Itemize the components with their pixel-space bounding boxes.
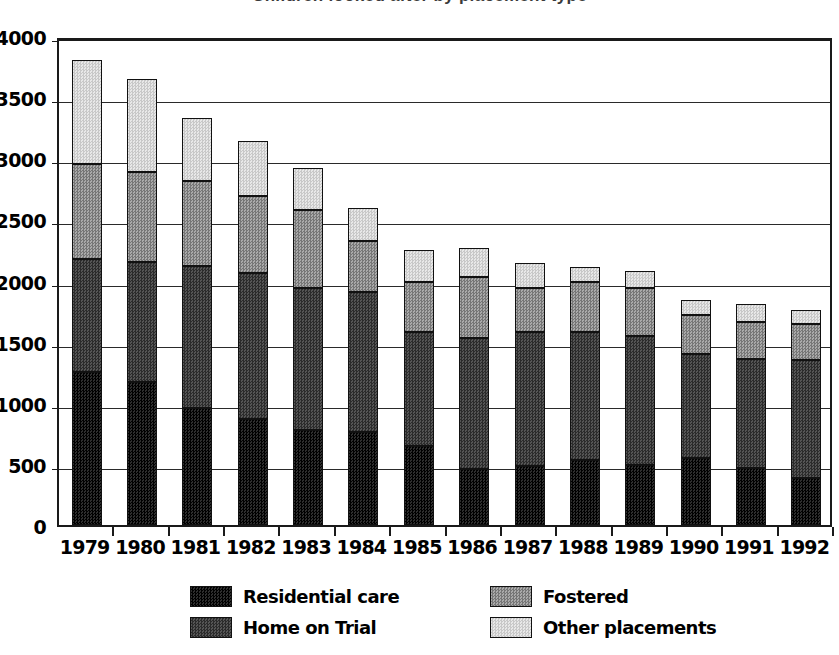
bar-segment-other <box>348 208 378 241</box>
x-axis-label-1988: 1988 <box>558 536 608 558</box>
bar-segment-residential <box>736 468 766 525</box>
x-axis-label-1991: 1991 <box>724 536 774 558</box>
bar-segment-home <box>459 338 489 469</box>
legend-label-residential: Residential care <box>243 586 399 607</box>
chart-title-clipped: Children looked after by placement type <box>0 0 839 14</box>
y-axis-labels: 05001000150020002500300035004000 <box>0 0 52 655</box>
bar-segment-residential <box>515 466 545 525</box>
bar-segment-other <box>293 168 323 210</box>
bar-group <box>59 41 830 525</box>
legend-swatch-other <box>490 617 532 638</box>
y-axis-tick <box>52 347 59 348</box>
plot-area <box>57 38 832 527</box>
bar-1987 <box>515 36 545 525</box>
bar-segment-residential <box>625 465 655 525</box>
bar-segment-home <box>348 292 378 433</box>
bar-1992 <box>791 36 821 525</box>
bar-segment-fostered <box>72 164 102 258</box>
bar-segment-residential <box>459 469 489 525</box>
x-axis-label-1982: 1982 <box>226 536 276 558</box>
bar-1991 <box>736 36 766 525</box>
bar-1985 <box>404 36 434 525</box>
bar-1980 <box>127 36 157 525</box>
bar-segment-other <box>515 263 545 289</box>
legend-item-fostered[interactable]: Fostered <box>490 586 628 607</box>
x-axis-label-1992: 1992 <box>779 536 829 558</box>
x-axis-label-1989: 1989 <box>613 536 663 558</box>
y-axis-tick-label: 2500 <box>0 212 46 231</box>
bar-segment-home <box>238 273 268 420</box>
x-axis-tick <box>832 527 834 536</box>
bar-segment-other <box>127 79 157 172</box>
x-axis-tick <box>112 527 114 536</box>
bar-segment-other <box>791 310 821 324</box>
legend-item-residential[interactable]: Residential care <box>190 586 399 607</box>
bar-segment-other <box>736 304 766 322</box>
x-axis-tick <box>334 527 336 536</box>
x-axis-tick <box>445 527 447 536</box>
bar-segment-home <box>127 262 157 382</box>
x-axis-tick <box>777 527 779 536</box>
y-axis-tick <box>52 102 59 103</box>
bar-segment-residential <box>127 382 157 525</box>
bar-segment-fostered <box>404 282 434 332</box>
bar-segment-residential <box>791 478 821 525</box>
x-axis-tick <box>223 527 225 536</box>
x-axis-tick <box>278 527 280 536</box>
bar-segment-other <box>238 141 268 195</box>
bar-1989 <box>625 36 655 525</box>
bar-segment-other <box>182 118 212 181</box>
y-axis-tick-label: 2000 <box>0 273 46 292</box>
bar-segment-home <box>293 288 323 430</box>
bar-segment-fostered <box>681 315 711 354</box>
bar-1990 <box>681 36 711 525</box>
x-axis-tick <box>666 527 668 536</box>
bar-segment-residential <box>182 408 212 525</box>
legend-item-home[interactable]: Home on Trial <box>190 617 376 638</box>
x-axis-labels: 1979198019811982198319841985198619871988… <box>57 536 832 566</box>
bar-segment-residential <box>293 430 323 525</box>
bar-1983 <box>293 36 323 525</box>
legend-label-home: Home on Trial <box>243 617 376 638</box>
bar-segment-fostered <box>625 288 655 336</box>
page-title: Children looked after by placement type <box>0 0 839 6</box>
bar-segment-other <box>570 267 600 282</box>
bar-segment-home <box>404 332 434 446</box>
x-axis-tick <box>168 527 170 536</box>
bar-1981 <box>182 36 212 525</box>
y-axis-tick <box>52 286 59 287</box>
bar-segment-home <box>625 336 655 465</box>
bar-segment-home <box>72 259 102 373</box>
bar-segment-residential <box>348 432 378 525</box>
y-axis-tick <box>52 163 59 164</box>
x-axis-label-1980: 1980 <box>115 536 165 558</box>
legend-swatch-home <box>190 617 232 638</box>
x-axis-tick <box>389 527 391 536</box>
bar-segment-other <box>404 250 434 282</box>
bar-segment-other <box>72 60 102 164</box>
bar-segment-fostered <box>238 196 268 273</box>
x-axis-label-1983: 1983 <box>281 536 331 558</box>
x-axis-label-1985: 1985 <box>392 536 442 558</box>
y-axis-tick <box>52 224 59 225</box>
y-axis-tick <box>52 41 59 42</box>
bar-segment-residential <box>570 460 600 525</box>
y-axis-tick-label: 1500 <box>0 334 46 353</box>
bar-segment-residential <box>72 372 102 525</box>
bar-segment-fostered <box>182 181 212 267</box>
bar-segment-fostered <box>570 282 600 332</box>
legend-swatch-residential <box>190 586 232 607</box>
y-axis-tick-label: 0 <box>33 518 46 537</box>
x-axis-label-1986: 1986 <box>447 536 497 558</box>
legend: Residential careHome on TrialFosteredOth… <box>190 586 750 648</box>
x-axis-label-1979: 1979 <box>60 536 110 558</box>
bar-segment-residential <box>681 458 711 525</box>
bar-1979 <box>72 36 102 525</box>
legend-item-other[interactable]: Other placements <box>490 617 716 638</box>
x-axis-label-1984: 1984 <box>337 536 387 558</box>
bar-segment-home <box>791 360 821 478</box>
bar-segment-fostered <box>127 172 157 262</box>
bar-segment-home <box>182 266 212 407</box>
bar-segment-other <box>625 271 655 288</box>
legend-label-fostered: Fostered <box>543 586 628 607</box>
